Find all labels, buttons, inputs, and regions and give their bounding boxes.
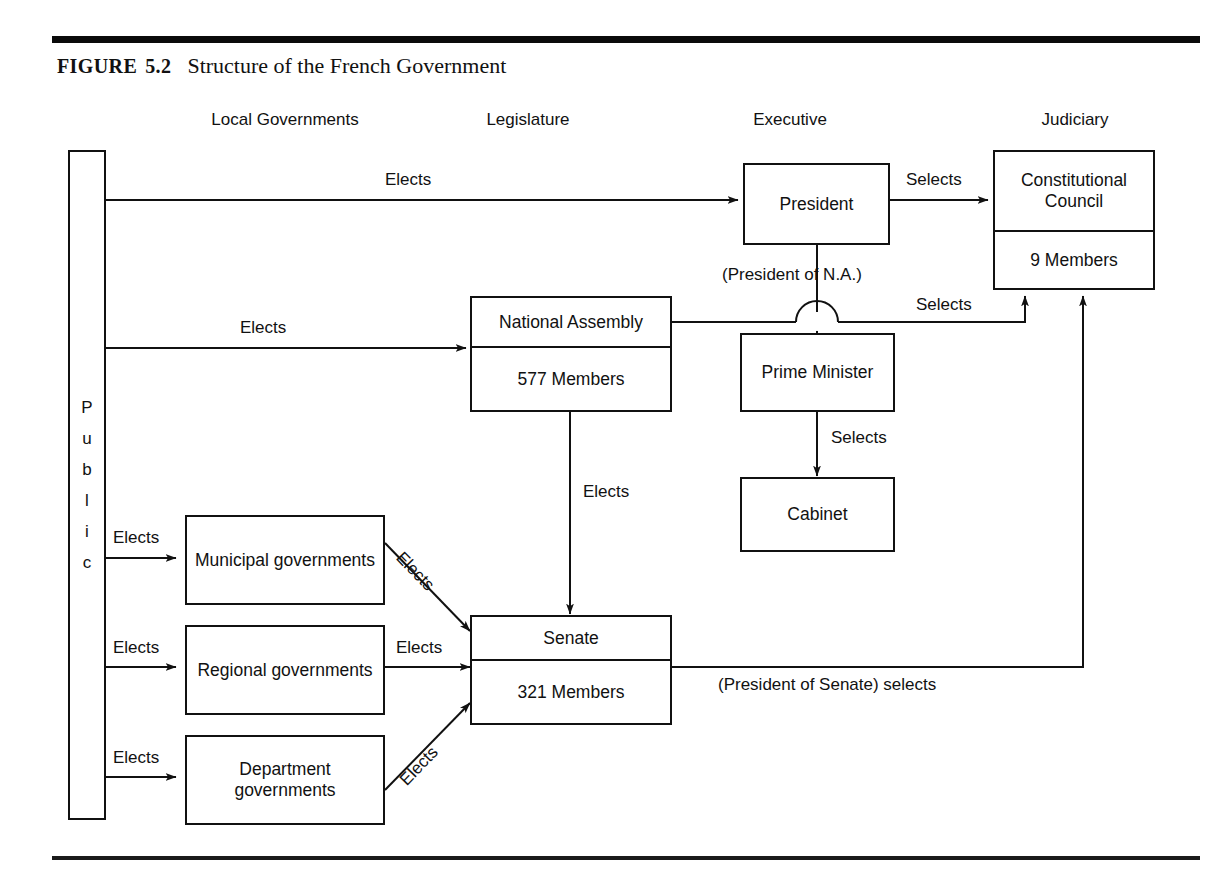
node-regional-governments-title: Regional governments xyxy=(187,627,383,713)
edge-label-public-elects-department: Elects xyxy=(113,748,159,768)
public-box: P u b l i c xyxy=(68,150,106,820)
public-letter-i: i xyxy=(85,516,89,547)
node-prime-minister-title: Prime Minister xyxy=(742,335,893,410)
node-national-assembly-title: National Assembly xyxy=(472,298,670,348)
node-department-governments-title: Department governments xyxy=(187,737,383,823)
connector-layer xyxy=(0,0,1224,877)
node-president: President xyxy=(743,163,890,245)
node-cabinet: Cabinet xyxy=(740,477,895,552)
public-letter-p: P xyxy=(81,392,92,423)
node-senate-detail: 321 Members xyxy=(472,661,670,723)
node-regional-governments: Regional governments xyxy=(185,625,385,715)
node-municipal-governments: Municipal governments xyxy=(185,515,385,605)
edge-label-public-elects-na: Elects xyxy=(240,318,286,338)
node-national-assembly: National Assembly 577 Members xyxy=(470,296,672,412)
public-letter-u: u xyxy=(82,423,91,454)
node-cabinet-title: Cabinet xyxy=(742,479,893,550)
node-senate-title: Senate xyxy=(472,617,670,661)
figure-canvas: FIGURE5.2 Structure of the French Govern… xyxy=(0,0,1224,877)
edge-label-na-elects-senate: Elects xyxy=(583,482,629,502)
edge-label-public-elects-municipal: Elects xyxy=(113,528,159,548)
edge-label-president-selects-council: Selects xyxy=(906,170,962,190)
edge-label-public-elects-president: Elects xyxy=(385,170,431,190)
public-letter-c: c xyxy=(83,547,92,578)
node-constitutional-council: Constitutional Council 9 Members xyxy=(993,150,1155,290)
edge-label-senate-president-selects: (President of Senate) selects xyxy=(718,675,936,695)
edge-label-na-selects-council: Selects xyxy=(916,295,972,315)
node-prime-minister: Prime Minister xyxy=(740,333,895,412)
node-president-title: President xyxy=(745,165,888,243)
node-national-assembly-detail: 577 Members xyxy=(472,348,670,410)
node-constitutional-council-detail: 9 Members xyxy=(995,232,1153,288)
edge-label-regional-elects-senate: Elects xyxy=(396,638,442,658)
public-letter-b: b xyxy=(82,454,91,485)
edge-label-pm-selects-cabinet: Selects xyxy=(831,428,887,448)
edge-label-public-elects-regional: Elects xyxy=(113,638,159,658)
public-letter-l: l xyxy=(85,485,89,516)
edge-label-president-of-na: (President of N.A.) xyxy=(722,265,862,285)
node-senate: Senate 321 Members xyxy=(470,615,672,725)
node-municipal-governments-title: Municipal governments xyxy=(187,517,383,603)
node-constitutional-council-title: Constitutional Council xyxy=(995,152,1153,232)
node-department-governments: Department governments xyxy=(185,735,385,825)
